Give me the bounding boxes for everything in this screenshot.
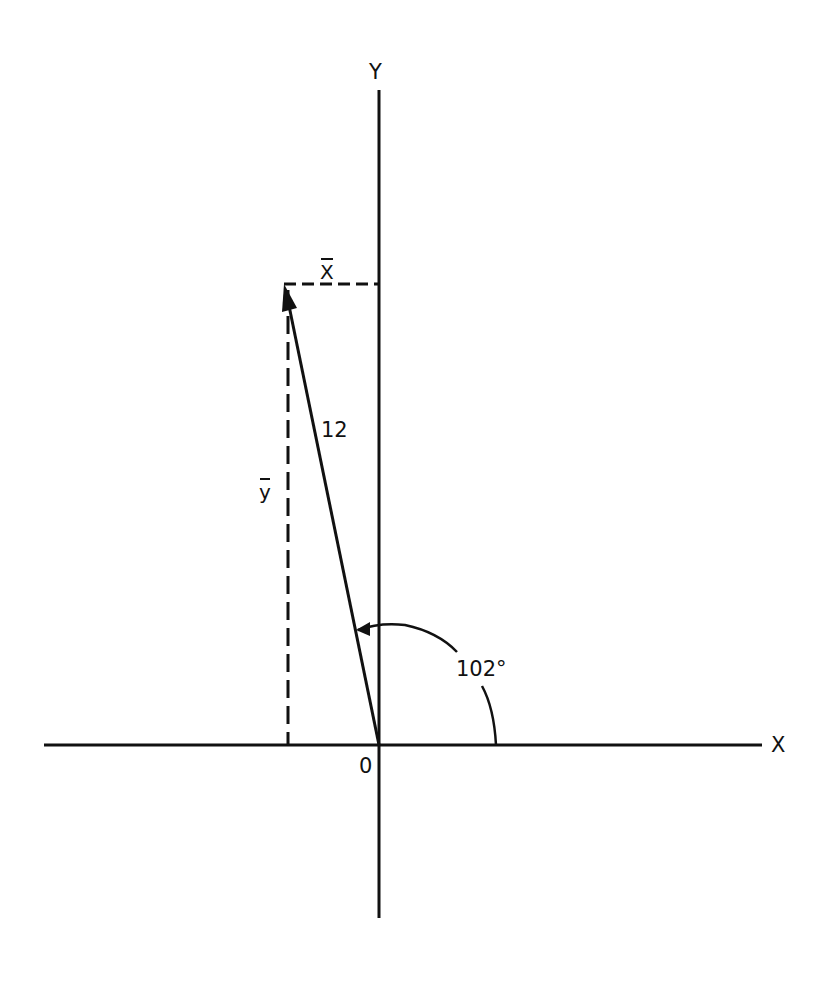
x-component-symbol: X [320, 262, 334, 282]
y-axis-label: Y [369, 62, 382, 83]
magnitude-label: 12 [321, 420, 348, 441]
angle-arc-lower [482, 686, 496, 745]
y-component-symbol: y [259, 482, 271, 502]
origin-label: 0 [359, 756, 372, 777]
x-axis-label: X [771, 735, 785, 756]
angle-label: 102° [456, 659, 507, 680]
x-component-label: X [320, 262, 334, 282]
vector-line [287, 296, 379, 745]
vector-arrowhead [282, 284, 297, 312]
angle-arrowhead [356, 622, 370, 636]
angle-arc-upper [358, 624, 457, 652]
y-component-label: y [259, 482, 271, 502]
vector-diagram [0, 0, 831, 981]
